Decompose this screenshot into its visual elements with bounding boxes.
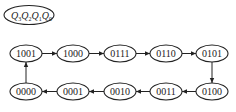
- svg-text:0011: 0011: [156, 86, 176, 97]
- state-node-0001: 0001: [57, 83, 89, 100]
- svg-text:0100: 0100: [202, 86, 222, 97]
- svg-text:0110: 0110: [156, 48, 176, 59]
- svg-text:1000: 1000: [63, 48, 83, 59]
- state-node-0000: 0000: [10, 83, 42, 100]
- state-node-0010: 0010: [104, 83, 136, 100]
- state-node-1000: 1000: [57, 45, 89, 62]
- state-node-0101: 0101: [196, 45, 228, 62]
- legend-label: Q3Q2Q1Q0: [11, 10, 52, 22]
- svg-text:0010: 0010: [110, 86, 130, 97]
- svg-text:0111: 0111: [110, 48, 129, 59]
- state-diagram: Q3Q2Q1Q0 1001 1000 0111 0110 0101 0100 0…: [0, 0, 236, 112]
- svg-text:1001: 1001: [16, 48, 36, 59]
- svg-text:0101: 0101: [202, 48, 222, 59]
- svg-text:0001: 0001: [63, 86, 83, 97]
- state-node-0011: 0011: [150, 83, 182, 100]
- state-node-1001: 1001: [10, 45, 42, 62]
- state-node-0100: 0100: [196, 83, 228, 100]
- svg-text:0000: 0000: [16, 86, 36, 97]
- state-node-0110: 0110: [150, 45, 182, 62]
- legend-state-variables: Q3Q2Q1Q0: [4, 6, 54, 25]
- state-node-0111: 0111: [104, 45, 136, 62]
